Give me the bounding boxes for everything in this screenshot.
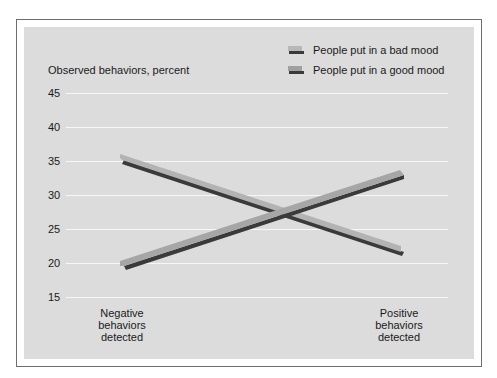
x-category-line: Positive [354,307,444,319]
legend-swatch-icon [288,46,304,54]
x-category-positive: Positive behaviors detected [354,307,444,343]
legend-label: People put in a good mood [313,64,445,76]
x-category-negative: Negative behaviors detected [77,307,167,343]
legend-swatch-icon [288,66,304,74]
x-category-line: behaviors [77,319,167,331]
series-bad-mood [120,154,404,256]
legend-label: People put in a bad mood [313,44,438,56]
x-category-line: Negative [77,307,167,319]
x-category-line: detected [77,331,167,343]
series-good-mood [120,170,404,270]
x-category-line: detected [354,331,444,343]
x-category-line: behaviors [354,319,444,331]
legend-item-good-mood: People put in a good mood [288,63,445,77]
legend-item-bad-mood: People put in a bad mood [288,43,438,57]
